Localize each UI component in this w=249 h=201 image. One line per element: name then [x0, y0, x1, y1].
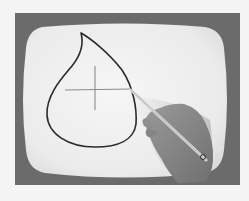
- photo: [0, 0, 249, 201]
